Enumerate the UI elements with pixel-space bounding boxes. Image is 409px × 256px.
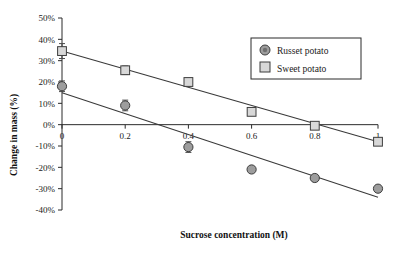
x-tick-label: 0.2 xyxy=(120,131,131,141)
y-tick-label: 30% xyxy=(39,56,56,66)
data-point-russet-potato xyxy=(247,165,256,174)
x-axis-title: Sucrose concentration (M) xyxy=(180,230,287,241)
y-tick-label: 50% xyxy=(39,13,56,23)
legend-marker-russet-potato-inner xyxy=(263,48,267,52)
y-tick-label: -40% xyxy=(36,205,56,215)
data-point-russet-potato xyxy=(57,82,66,91)
y-axis-title: Change in mass (%) xyxy=(9,94,20,176)
y-tick-label: -20% xyxy=(36,163,56,173)
data-point-sweet-potato xyxy=(121,66,130,75)
chart-container: 50%40%30%20%10%0%-10%-20%-30%-40%00.20.4… xyxy=(0,0,409,256)
data-point-sweet-potato xyxy=(374,137,383,146)
chart-legend: Russet potato Sweet potato xyxy=(251,38,361,79)
y-tick-label: 40% xyxy=(39,35,56,45)
x-tick-label: 0.8 xyxy=(309,131,321,141)
data-point-russet-potato xyxy=(184,142,193,151)
y-tick-label: 20% xyxy=(39,77,56,87)
x-tick-label: 0.6 xyxy=(246,131,258,141)
data-point-sweet-potato xyxy=(310,121,319,130)
legend-label-russet-potato: Russet potato xyxy=(277,46,329,56)
y-tick-label: 10% xyxy=(39,99,56,109)
x-tick-label: 0 xyxy=(60,131,65,141)
legend-marker-sweet-potato xyxy=(260,62,270,72)
data-point-russet-potato xyxy=(373,184,382,193)
data-point-sweet-potato xyxy=(247,107,256,116)
y-tick-label: -30% xyxy=(36,184,56,194)
scatter-plot: 50%40%30%20%10%0%-10%-20%-30%-40%00.20.4… xyxy=(0,0,409,256)
data-point-sweet-potato xyxy=(184,78,193,87)
y-tick-label: 0% xyxy=(43,120,56,130)
data-point-russet-potato xyxy=(310,173,319,182)
data-point-russet-potato xyxy=(121,101,130,110)
data-point-sweet-potato xyxy=(58,47,67,56)
trend-line-circle xyxy=(62,93,378,198)
legend-label-sweet-potato: Sweet potato xyxy=(277,64,327,74)
y-tick-label: -10% xyxy=(36,141,56,151)
